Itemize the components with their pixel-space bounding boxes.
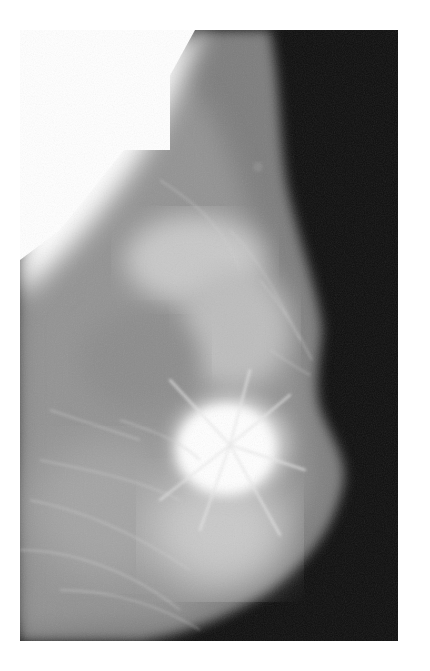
mammogram-rendering	[20, 30, 398, 641]
mammogram-image	[20, 30, 398, 641]
